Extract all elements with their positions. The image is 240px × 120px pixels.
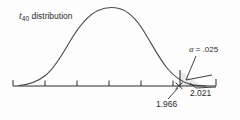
- upper-critical-value-label: 2.021: [190, 89, 211, 98]
- curve-label-word: distribution: [31, 11, 72, 21]
- t-distribution-figure: t40distribution α = .025 1.966 2.021: [0, 0, 240, 120]
- alpha-symbol: α: [189, 44, 193, 54]
- curve-label-subscript: 40: [22, 15, 30, 22]
- alpha-annotation: α = .025: [189, 45, 218, 54]
- lower-critical-value-label: 1.966: [156, 100, 177, 109]
- curve-label: t40distribution: [19, 11, 73, 23]
- alpha-leader-line: [186, 56, 196, 80]
- alpha-equals: =: [196, 45, 201, 54]
- lower-value-leader-line: [168, 88, 178, 99]
- alpha-value: .025: [203, 45, 219, 54]
